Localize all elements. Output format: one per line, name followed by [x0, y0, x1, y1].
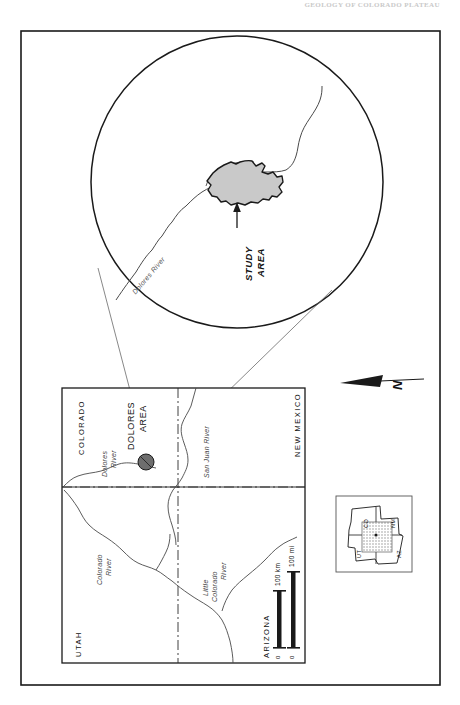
- state-label-utah: UTAH: [74, 631, 83, 657]
- scale-zero-mi: 0: [289, 656, 295, 659]
- north-arrow-head: [340, 375, 383, 387]
- locator-label-az: AZ: [396, 550, 402, 558]
- locator-label-co: CO: [363, 519, 369, 528]
- river-label-colorado-line1: Colorado: [96, 554, 103, 585]
- locator-four-corners-point: [374, 533, 377, 536]
- state-label-colorado: COLORADO: [77, 400, 86, 455]
- river-label-san-juan: San Juan River: [203, 426, 210, 478]
- river-label-little-colorado-line3: River: [220, 562, 227, 580]
- dolores-area-label-line1: DOLORES: [126, 402, 136, 450]
- scale-bar-km-tick-top: [273, 590, 286, 592]
- state-label-arizona: ARIZONA: [262, 614, 271, 658]
- four-corners-locator: [336, 496, 412, 572]
- north-arrow: [340, 375, 424, 387]
- state-label-new-mexico: NEW MEXICO: [293, 393, 302, 457]
- scale-label-mi: 100 mi: [288, 546, 295, 567]
- scale-bar-km-tick-bottom: [273, 647, 286, 649]
- magnified-detail-circle: [91, 36, 383, 328]
- locator-label-nm: NM: [390, 518, 396, 528]
- river-label-dolores-line1: Dolores: [101, 451, 108, 477]
- river-label-little-colorado-line1: Little: [202, 579, 209, 596]
- study-area-label-line2: AREA: [255, 248, 266, 277]
- study-area-label-line1: STUDY: [243, 246, 254, 281]
- scale-zero-km: 0: [275, 656, 281, 659]
- locator-label-ut: UT: [356, 550, 362, 558]
- scale-bar-km: [277, 591, 282, 648]
- scale-bar-mi-tick-bottom: [287, 647, 300, 649]
- scale-bar-mi: [291, 572, 296, 648]
- scale-label-km: 100 km: [274, 563, 281, 586]
- north-arrow-label: N: [390, 381, 405, 390]
- river-label-little-colorado-line2: Colorado: [211, 571, 218, 602]
- river-label-colorado-line2: River: [105, 558, 112, 576]
- dolores-area-label-line2: AREA: [138, 405, 148, 432]
- scale-bar-mi-tick-top: [287, 571, 300, 573]
- figure-root: GEOLOGY OF COLORADO PLATEAU: [0, 0, 460, 705]
- location-map-figure: [0, 0, 460, 705]
- river-label-dolores-line2: River: [110, 450, 117, 468]
